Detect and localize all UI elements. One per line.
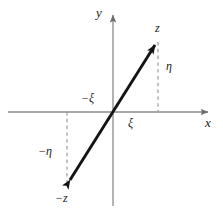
- xi-positive-label: ξ: [128, 117, 133, 129]
- y-axis-label: y: [96, 6, 102, 19]
- x-axis-label: x: [205, 116, 211, 129]
- point-label-neg-z: −z: [55, 192, 68, 204]
- complex-plane-figure: y x z −z ξ −ξ η −η: [0, 0, 223, 216]
- point-label-z: z: [155, 22, 160, 34]
- eta-negative-label: −η: [38, 145, 52, 157]
- figure-canvas: [0, 0, 223, 216]
- xi-negative-label: −ξ: [81, 92, 94, 104]
- eta-positive-label: η: [166, 60, 172, 72]
